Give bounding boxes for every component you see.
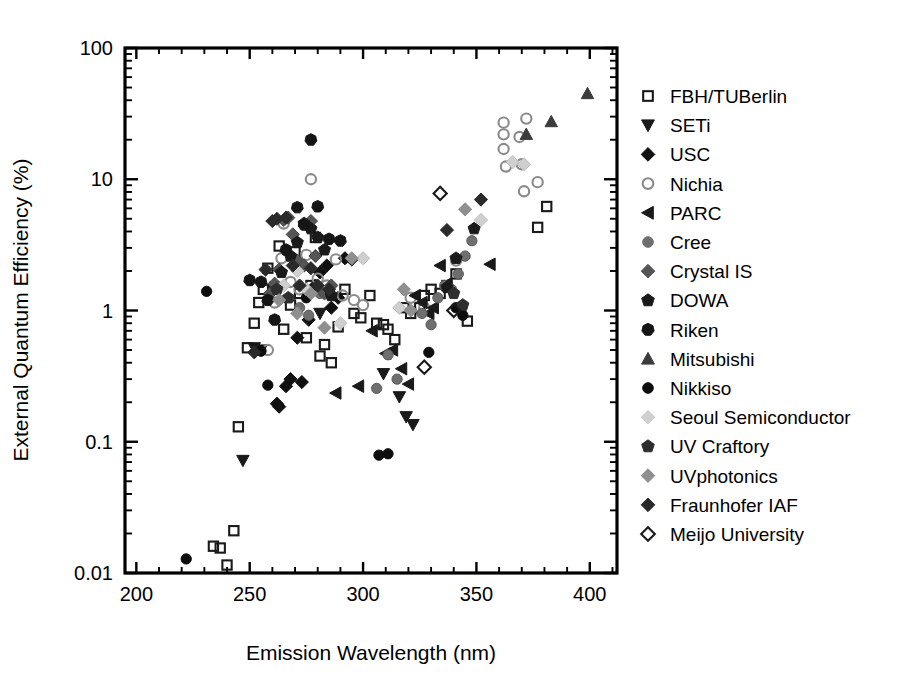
legend-item-label: Mitsubishi xyxy=(670,349,754,370)
legend-item-label: Seoul Semiconductor xyxy=(670,407,851,428)
data-point xyxy=(453,269,463,279)
legend-item-label: Fraunhofer IAF xyxy=(670,495,798,516)
data-point xyxy=(519,186,529,196)
x-tick-label: 250 xyxy=(233,583,266,605)
data-point xyxy=(181,554,191,564)
data-point xyxy=(520,128,532,139)
data-point xyxy=(377,369,389,380)
legend-item-uvphotonics[interactable]: UVphotonics xyxy=(634,463,884,489)
legend-item-cree[interactable]: Cree xyxy=(634,229,884,255)
y-tick-label: 10 xyxy=(91,168,113,190)
legend-item-meijo-university[interactable]: Meijo University xyxy=(634,521,884,547)
x-tick-label: 200 xyxy=(120,583,153,605)
data-point xyxy=(533,223,542,232)
scatter-plot: 200250300350400 0.010.1110100 Emission W… xyxy=(0,0,904,673)
data-point xyxy=(474,193,487,206)
data-point xyxy=(499,129,509,139)
data-point xyxy=(395,363,406,375)
legend-item-label: Nichia xyxy=(670,174,723,195)
legend-item-label: UVphotonics xyxy=(670,466,778,487)
y-axis-title: External Quantum Efficiency (%) xyxy=(9,158,32,461)
legend-item-label: DOWA xyxy=(670,290,729,311)
legend-item-uv-craftory[interactable]: UV Craftory xyxy=(634,433,884,459)
legend-item-nikkiso[interactable]: Nikkiso xyxy=(634,375,884,401)
data-point xyxy=(383,350,393,360)
legend-item-seoul-semiconductor[interactable]: Seoul Semiconductor xyxy=(634,404,884,430)
data-point xyxy=(327,358,336,367)
data-point xyxy=(305,134,317,146)
legend-item-label: Cree xyxy=(670,232,711,253)
data-point xyxy=(234,422,243,431)
data-point xyxy=(263,380,273,390)
legend-item-fbh-tuberlin[interactable]: FBH/TUBerlin xyxy=(634,83,884,109)
legend-item-parc[interactable]: PARC xyxy=(634,200,884,226)
y-axis-ticks xyxy=(125,48,617,573)
legend-item-label: FBH/TUBerlin xyxy=(670,86,787,107)
legend-item-label: Riken xyxy=(670,320,719,341)
legend-marker-icon xyxy=(642,323,654,335)
x-tick-label: 350 xyxy=(460,583,493,605)
data-point xyxy=(318,321,331,334)
x-axis-ticks xyxy=(136,48,612,573)
series-parc xyxy=(330,258,496,399)
data-point xyxy=(229,526,238,535)
legend-item-seti[interactable]: SETi xyxy=(634,112,884,138)
data-point xyxy=(358,300,368,310)
y-tick-label: 100 xyxy=(80,37,113,59)
legend-item-label: PARC xyxy=(670,203,721,224)
y-tick-label: 0.01 xyxy=(74,562,113,584)
data-point xyxy=(255,276,267,287)
legend-item-label: Nikkiso xyxy=(670,378,731,399)
data-point xyxy=(330,387,341,399)
data-point xyxy=(269,314,281,325)
legend-item-label: Crystal IS xyxy=(670,261,752,282)
data-point xyxy=(434,259,445,271)
data-point xyxy=(312,200,324,212)
data-point xyxy=(295,375,308,388)
legend-item-riken[interactable]: Riken xyxy=(634,317,884,343)
legend-item-fraunhofer-iaf[interactable]: Fraunhofer IAF xyxy=(634,492,884,518)
legend-item-mitsubishi[interactable]: Mitsubishi xyxy=(634,346,884,372)
y-tick-label: 0.1 xyxy=(85,431,113,453)
data-point xyxy=(521,113,531,123)
legend-item-nichia[interactable]: Nichia xyxy=(634,171,884,197)
legend-item-label: UV Craftory xyxy=(670,436,770,457)
data-point xyxy=(323,233,335,245)
x-axis-tick-labels: 200250300350400 xyxy=(120,583,607,605)
legend-item-label: Meijo University xyxy=(670,524,805,545)
x-tick-label: 300 xyxy=(346,583,379,605)
data-point xyxy=(418,361,431,374)
data-point xyxy=(402,378,413,390)
data-point xyxy=(262,294,274,306)
data-point xyxy=(325,301,338,314)
legend-marker-icon xyxy=(643,237,654,248)
data-point xyxy=(467,236,477,246)
data-point xyxy=(426,320,436,330)
data-point xyxy=(440,223,453,236)
chart-legend: FBH/TUBerlinSETiUSCNichiaPARCCreeCrystal… xyxy=(634,83,884,547)
legend-item-label: USC xyxy=(670,144,710,165)
data-point xyxy=(298,219,310,230)
data-point xyxy=(315,351,324,360)
data-point xyxy=(499,144,509,154)
data-point xyxy=(318,243,330,255)
data-point xyxy=(374,450,384,460)
data-point xyxy=(424,347,434,357)
legend-item-crystal-is[interactable]: Crystal IS xyxy=(634,258,884,284)
legend-item-usc[interactable]: USC xyxy=(634,141,884,167)
data-point xyxy=(393,392,405,403)
y-axis-tick-labels: 0.010.1110100 xyxy=(74,37,113,584)
data-point xyxy=(304,310,314,320)
data-point xyxy=(545,115,557,126)
data-point xyxy=(340,285,349,294)
data-point xyxy=(542,202,551,211)
legend-item-dowa[interactable]: DOWA xyxy=(634,287,884,313)
data-point xyxy=(237,455,249,466)
data-point xyxy=(201,286,211,296)
figure-container: 200250300350400 0.010.1110100 Emission W… xyxy=(0,0,904,673)
data-point xyxy=(280,244,292,256)
data-point xyxy=(352,380,363,392)
data-point xyxy=(250,319,259,328)
legend-marker-icon xyxy=(643,383,654,394)
data-point xyxy=(392,374,402,384)
